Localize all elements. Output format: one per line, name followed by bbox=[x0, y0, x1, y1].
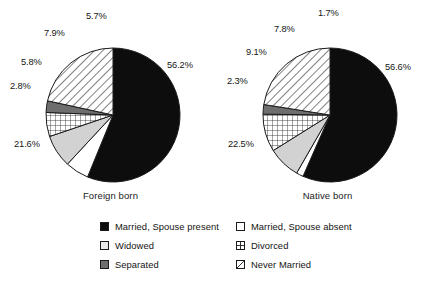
pie-foreign-born-svg bbox=[0, 0, 221, 212]
pie-label-foreign-never-married: 21.6% bbox=[14, 139, 40, 149]
legend-swatch-widowed bbox=[100, 241, 109, 250]
legend-column-right: Married, Spouse absent Divorced Nev bbox=[236, 218, 352, 275]
pie-chart-figure: 56.2% 5.7% 7.9% 5.8% 2.8% 21.6% Foreign … bbox=[0, 0, 443, 285]
pie-label-native-widowed: 7.8% bbox=[274, 24, 295, 34]
legend-label-married-spouse-absent: Married, Spouse absent bbox=[251, 222, 352, 232]
legend-label-separated: Separated bbox=[115, 260, 159, 270]
legend-swatch-married-spouse-present bbox=[100, 222, 109, 231]
legend-column-left: Married, Spouse present Widowed Separate… bbox=[100, 218, 219, 275]
pie-caption-native-born: Native born bbox=[217, 190, 438, 201]
legend-swatch-never-married bbox=[236, 260, 245, 269]
pie-label-native-married-spouse-present: 56.6% bbox=[385, 62, 411, 72]
legend-item-divorced: Divorced bbox=[236, 237, 352, 254]
legend-swatch-divorced bbox=[236, 241, 245, 250]
legend-label-married-spouse-present: Married, Spouse present bbox=[115, 222, 219, 232]
pie-chart-foreign-born: 56.2% 5.7% 7.9% 5.8% 2.8% 21.6% Foreign … bbox=[0, 0, 221, 212]
legend-item-married-spouse-present: Married, Spouse present bbox=[100, 218, 219, 235]
pie-caption-foreign-born: Foreign born bbox=[0, 190, 221, 201]
legend-label-widowed: Widowed bbox=[115, 241, 154, 251]
legend-item-separated: Separated bbox=[100, 256, 219, 273]
legend-swatch-separated bbox=[100, 260, 109, 269]
legend-swatch-married-spouse-absent bbox=[236, 222, 245, 231]
chart-legend: Married, Spouse present Widowed Separate… bbox=[0, 218, 443, 280]
legend-item-never-married: Never Married bbox=[236, 256, 352, 273]
pie-label-foreign-married-spouse-absent: 5.7% bbox=[86, 11, 107, 21]
pie-label-foreign-divorced: 5.8% bbox=[21, 57, 42, 67]
pie-label-native-separated: 2.3% bbox=[227, 76, 248, 86]
diagonal-pattern-icon bbox=[237, 261, 244, 268]
pie-label-foreign-widowed: 7.9% bbox=[44, 28, 65, 38]
pie-chart-native-born: 56.6% 1.7% 7.8% 9.1% 2.3% 22.5% Native b… bbox=[217, 0, 438, 212]
pie-label-native-never-married: 22.5% bbox=[228, 139, 254, 149]
pie-label-native-divorced: 9.1% bbox=[246, 47, 267, 57]
pie-label-foreign-married-spouse-present: 56.2% bbox=[167, 60, 193, 70]
legend-label-never-married: Never Married bbox=[251, 260, 311, 270]
pie-slice-never-married bbox=[264, 48, 330, 115]
pie-label-foreign-separated: 2.8% bbox=[10, 81, 31, 91]
pie-native-born-svg bbox=[217, 0, 438, 212]
legend-label-divorced: Divorced bbox=[251, 241, 288, 251]
legend-item-married-spouse-absent: Married, Spouse absent bbox=[236, 218, 352, 235]
grid-pattern-icon bbox=[237, 242, 244, 249]
legend-item-widowed: Widowed bbox=[100, 237, 219, 254]
pie-label-native-married-spouse-absent: 1.7% bbox=[318, 8, 339, 18]
